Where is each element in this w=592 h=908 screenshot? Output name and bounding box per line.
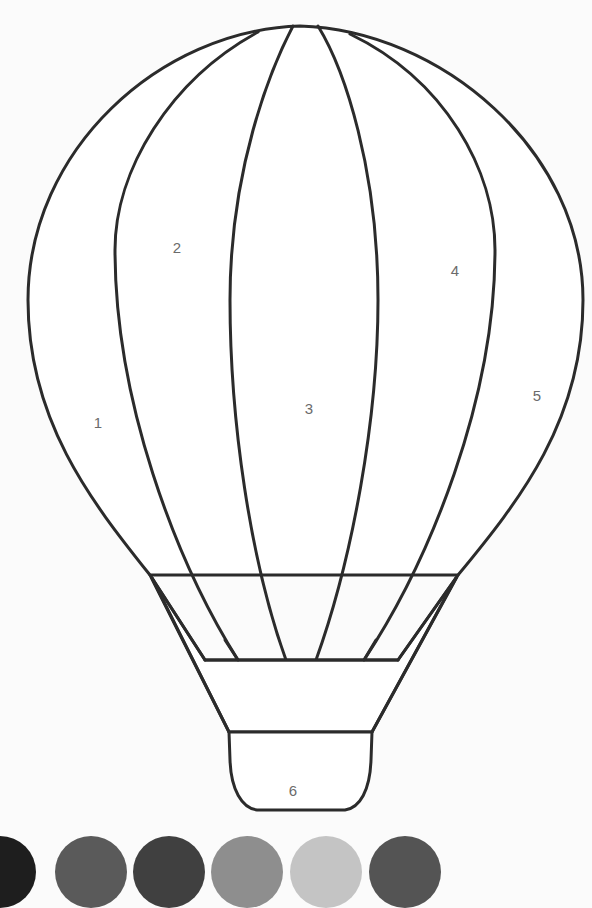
basket[interactable]	[229, 732, 372, 810]
color-swatch-2[interactable]	[55, 836, 127, 908]
color-swatch-5[interactable]	[290, 836, 362, 908]
color-swatch-3[interactable]	[133, 836, 205, 908]
color-swatch-4[interactable]	[211, 836, 283, 908]
color-swatch-6[interactable]	[369, 836, 441, 908]
